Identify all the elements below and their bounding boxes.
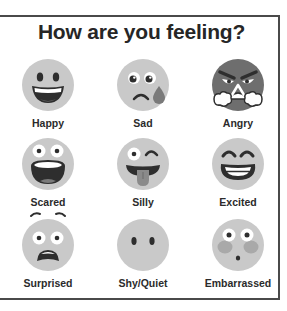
emotion-label: Surprised <box>0 277 96 289</box>
emotion-label: Silly <box>95 196 191 208</box>
emotion-card-embarrassed: Embarrassed <box>190 219 286 299</box>
excited-face-icon <box>212 138 264 190</box>
emotion-label: Scared <box>0 196 96 208</box>
emotion-card-scared: Scared <box>0 138 96 218</box>
emotion-card-shy-quiet: Shy/Quiet <box>95 219 191 299</box>
emotion-card-surprised: Surprised <box>0 219 96 299</box>
emotion-card-sad: Sad <box>95 59 191 139</box>
emotion-label: Excited <box>190 196 286 208</box>
surprised-face-icon <box>22 219 74 271</box>
emotion-label: Happy <box>0 117 96 129</box>
emotion-card-excited: Excited <box>190 138 286 218</box>
scared-face-icon <box>22 138 74 190</box>
emotion-label: Embarrassed <box>190 277 286 289</box>
angry-face-icon <box>212 59 264 111</box>
happy-face-icon <box>22 59 74 111</box>
sad-face-icon <box>117 59 169 111</box>
emotion-card-silly: Silly <box>95 138 191 218</box>
emotion-card-happy: Happy <box>0 59 96 139</box>
page-title: How are you feeling? <box>0 20 283 44</box>
emotion-label: Sad <box>95 117 191 129</box>
silly-face-icon <box>117 138 169 190</box>
embarrassed-face-icon <box>212 219 264 271</box>
emotion-label: Shy/Quiet <box>95 277 191 289</box>
emotion-label: Angry <box>190 117 286 129</box>
shy-face-icon <box>117 219 169 271</box>
emotion-card-angry: Angry <box>190 59 286 139</box>
